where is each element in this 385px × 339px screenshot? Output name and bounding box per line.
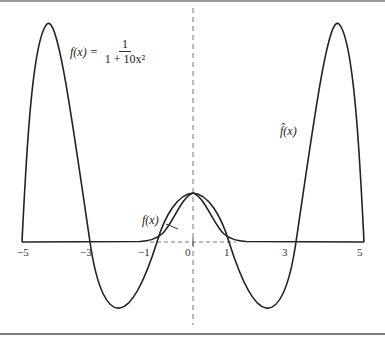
x-tick-1: 1 [224,246,230,258]
x-tick-0: 0 [185,246,191,258]
formula-numerator: 1 [119,38,131,52]
formula-annotation: f(x) = 1 1 + 10x² [70,38,148,66]
f-curve-label: f(x) [142,213,159,228]
formula-fraction: 1 1 + 10x² [102,38,148,66]
fhat-curve-label: f̂(x) [280,124,297,139]
formula-denominator: 1 + 10x² [102,52,148,66]
x-tick-minus5: −5 [17,246,29,258]
x-tick-3: 3 [282,246,288,258]
plot-canvas [0,0,385,339]
x-tick-minus3: −3 [80,246,92,258]
formula-lhs: f(x) = [70,45,98,60]
x-tick-5: 5 [357,246,363,258]
x-tick-minus1: −1 [138,246,150,258]
